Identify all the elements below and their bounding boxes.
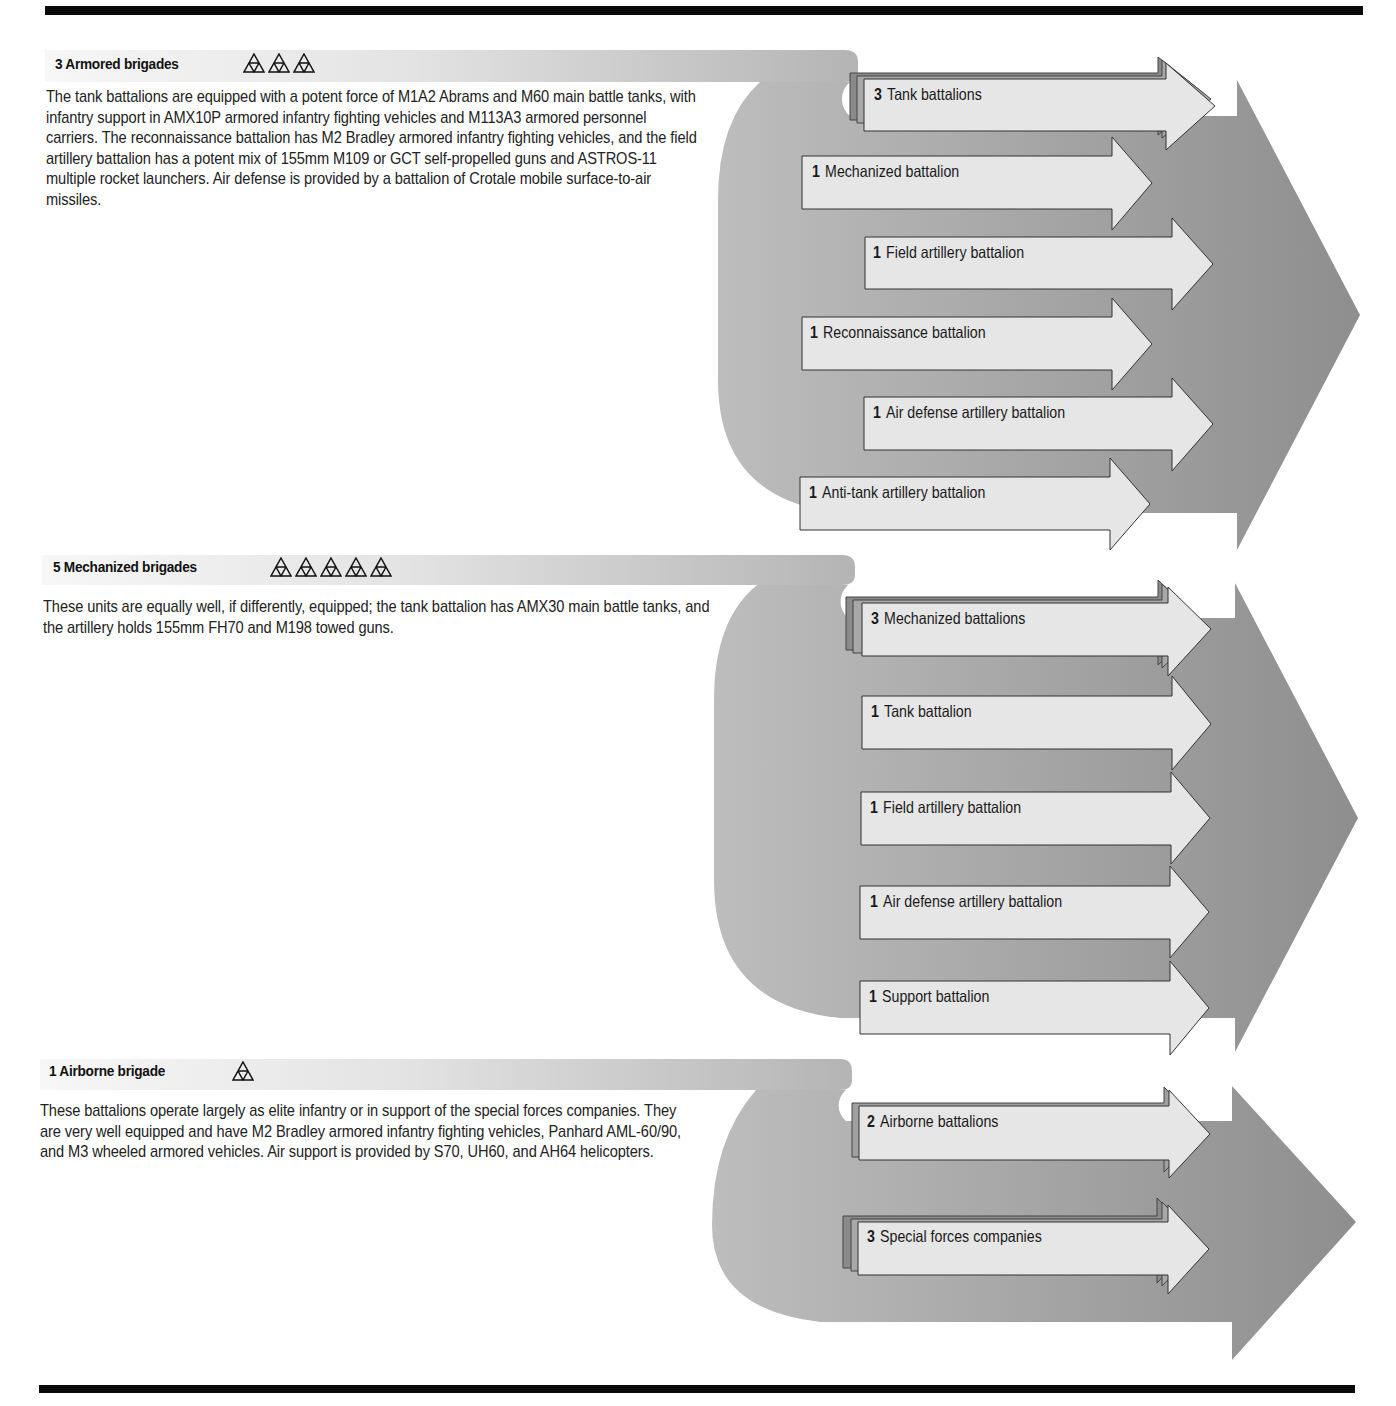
brigade-count: 3 bbox=[55, 55, 62, 72]
brigade-symbol-icon bbox=[268, 53, 290, 73]
brigade-symbol-icon bbox=[345, 557, 367, 577]
unit-label: 1Reconnaissance battalion bbox=[810, 323, 986, 342]
unit-label: 3Tank battalions bbox=[874, 85, 982, 104]
unit-label: 1Support battalion bbox=[869, 987, 989, 1006]
unit-label: 1Mechanized battalion bbox=[812, 162, 959, 181]
brigade-symbol-icon bbox=[243, 53, 265, 73]
unit-label: 1Air defense artillery battalion bbox=[873, 403, 1065, 422]
unit-label: 1Field artillery battalion bbox=[870, 798, 1021, 817]
brigade-symbol-icon bbox=[232, 1061, 254, 1081]
brigade-symbols bbox=[232, 1061, 254, 1081]
brigade-title: 5 Mechanized brigades bbox=[53, 558, 197, 576]
unit-label: 3Special forces companies bbox=[867, 1227, 1042, 1246]
brigade-title: 3 Armored brigades bbox=[55, 55, 179, 73]
brigade-name: Armored brigades bbox=[65, 55, 178, 72]
brigade-symbol-icon bbox=[295, 557, 317, 577]
brigade-name: Airborne brigade bbox=[59, 1062, 165, 1079]
brigade-symbol-icon bbox=[270, 557, 292, 577]
brigade-symbols bbox=[243, 53, 315, 73]
brigade-symbol-icon bbox=[320, 557, 342, 577]
unit-label: 1Tank battalion bbox=[871, 702, 972, 721]
brigade-count: 5 bbox=[53, 558, 60, 575]
brigade-symbol-icon bbox=[370, 557, 392, 577]
unit-label: 3Mechanized battalions bbox=[871, 609, 1025, 628]
org-diagram bbox=[0, 0, 1396, 1406]
unit-label: 2Airborne battalions bbox=[867, 1112, 998, 1131]
brigade-description: These battalions operate largely as elit… bbox=[40, 1101, 695, 1163]
brigade-name: Mechanized brigades bbox=[64, 558, 197, 575]
brigade-symbol-icon bbox=[293, 53, 315, 73]
brigade-symbols bbox=[270, 557, 392, 577]
brigade-title: 1 Airborne brigade bbox=[49, 1062, 165, 1080]
brigade-description: The tank battalions are equipped with a … bbox=[46, 87, 701, 211]
unit-label: 1Anti-tank artillery battalion bbox=[809, 483, 985, 502]
unit-label: 1Field artillery battalion bbox=[873, 243, 1024, 262]
brigade-description: These units are equally well, if differe… bbox=[43, 597, 714, 638]
unit-label: 1Air defense artillery battalion bbox=[870, 892, 1062, 911]
brigade-count: 1 bbox=[49, 1062, 56, 1079]
